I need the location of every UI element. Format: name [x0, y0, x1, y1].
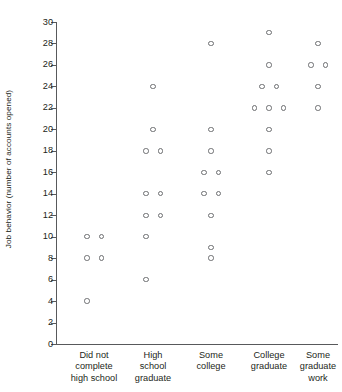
y-tick-label: 26 [43, 58, 53, 70]
data-point [266, 30, 271, 35]
data-point [315, 105, 320, 110]
data-point [208, 245, 213, 250]
data-point [208, 255, 213, 260]
data-point [143, 277, 148, 282]
data-point [208, 213, 213, 218]
x-category-label-4: Some graduate work [300, 350, 336, 384]
data-point [259, 84, 264, 89]
data-point [308, 62, 313, 67]
data-point [158, 191, 163, 196]
y-axis-title: Job behavior (number of accounts opened) [0, 4, 18, 334]
y-tick-label: 20 [43, 123, 53, 135]
data-point [208, 41, 213, 46]
data-point [143, 213, 148, 218]
data-point [84, 298, 89, 303]
x-category-label-3: College graduate [251, 350, 287, 373]
data-point [208, 148, 213, 153]
data-point [323, 62, 328, 67]
data-point [158, 213, 163, 218]
data-point [315, 41, 320, 46]
data-point [281, 105, 286, 110]
data-point [143, 148, 148, 153]
x-axis-line [56, 344, 338, 345]
data-point [84, 255, 89, 260]
data-point [84, 234, 89, 239]
data-point [315, 84, 320, 89]
data-point [143, 191, 148, 196]
y-tick-label: 8 [48, 252, 53, 264]
data-point [201, 191, 206, 196]
data-point [252, 105, 257, 110]
data-point [150, 127, 155, 132]
y-tick-label: 2 [48, 316, 53, 328]
y-tick-label: 4 [48, 295, 53, 307]
x-category-label-1: High school graduate [135, 350, 171, 384]
data-point [216, 191, 221, 196]
y-tick-label: 28 [43, 37, 53, 49]
plot-area: 024681012141618202224262830 Did not comp… [56, 18, 340, 348]
data-point [99, 234, 104, 239]
data-point [274, 84, 279, 89]
y-tick-label: 14 [43, 187, 53, 199]
data-point [266, 62, 271, 67]
data-point [216, 170, 221, 175]
data-point [208, 127, 213, 132]
data-point [266, 148, 271, 153]
y-tick-label: 0 [48, 338, 53, 350]
y-tick-label: 16 [43, 166, 53, 178]
dot-plot-chart: Job behavior (number of accounts opened)… [0, 0, 342, 392]
y-tick-label: 24 [43, 80, 53, 92]
y-tick-label: 6 [48, 273, 53, 285]
y-axis-line [56, 22, 57, 344]
data-point [150, 84, 155, 89]
data-point [143, 234, 148, 239]
data-point [266, 170, 271, 175]
data-point [158, 148, 163, 153]
x-category-label-0: Did not complete high school [71, 350, 117, 384]
y-tick-label: 30 [43, 16, 53, 28]
y-tick-label: 12 [43, 209, 53, 221]
data-point [99, 255, 104, 260]
y-tick-label: 18 [43, 144, 53, 156]
x-category-label-2: Some college [196, 350, 225, 373]
data-point [266, 127, 271, 132]
y-tick-label: 10 [43, 230, 53, 242]
data-point [201, 170, 206, 175]
y-tick-label: 22 [43, 101, 53, 113]
data-point [266, 105, 271, 110]
